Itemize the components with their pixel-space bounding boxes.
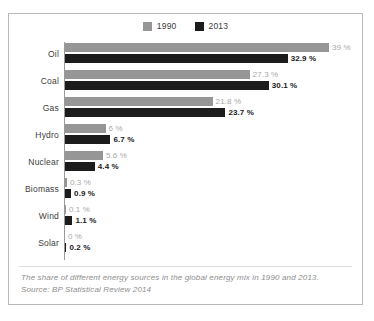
bar-value-nuclear-1990: 5.6 %	[103, 152, 127, 160]
bar-group-coal: Coal 27.3 % 30.1 %	[9, 67, 364, 94]
bar-pair-solar: 0 % 0.2 %	[64, 229, 364, 256]
bar-row-oil-2013: 32.9 %	[65, 54, 316, 63]
bar-coal-1990[interactable]	[65, 70, 250, 79]
bar-row-hydro-2013: 6.7 %	[65, 135, 134, 144]
bar-oil-2013[interactable]	[65, 54, 288, 63]
bar-row-gas-2013: 23.7 %	[65, 108, 254, 117]
bar-value-oil-2013: 32.9 %	[288, 55, 317, 63]
bar-nuclear-1990[interactable]	[65, 151, 103, 160]
bar-value-biomass-2013: 0.9 %	[71, 190, 95, 198]
bar-group-oil: Oil 39 % 32.9 %	[9, 40, 364, 67]
plot-area: Oil 39 % 32.9 % Coal 27.3 %	[9, 40, 364, 262]
bar-value-solar-2013: 0.2 %	[66, 244, 90, 252]
category-label-solar: Solar	[9, 238, 64, 248]
legend-entry-2013[interactable]: 2013	[195, 22, 229, 31]
bar-row-biomass-1990: 0.3 %	[65, 178, 91, 187]
legend-label-1990: 1990	[157, 22, 177, 31]
bar-value-oil-1990: 39 %	[329, 44, 351, 52]
legend-swatch-icon-2013	[195, 22, 204, 31]
bar-row-nuclear-1990: 5.6 %	[65, 151, 127, 160]
bar-value-hydro-2013: 6.7 %	[110, 136, 134, 144]
bar-row-coal-2013: 30.1 %	[65, 81, 297, 90]
bar-row-wind-2013: 1.1 %	[65, 216, 96, 225]
bar-hydro-1990[interactable]	[65, 124, 106, 133]
bar-wind-2013[interactable]	[65, 216, 72, 225]
legend-entry-1990[interactable]: 1990	[143, 22, 177, 31]
bar-pair-biomass: 0.3 % 0.9 %	[64, 175, 364, 202]
category-label-hydro: Hydro	[9, 130, 64, 140]
bar-nuclear-2013[interactable]	[65, 162, 95, 171]
bar-value-coal-1990: 27.3 %	[250, 71, 279, 79]
bar-group-hydro: Hydro 6 % 6.7 %	[9, 121, 364, 148]
bar-group-gas: Gas 21.8 % 23.7 %	[9, 94, 364, 121]
bar-coal-2013[interactable]	[65, 81, 269, 90]
legend-label-2013: 2013	[209, 22, 229, 31]
bar-oil-1990[interactable]	[65, 43, 329, 52]
bar-value-gas-1990: 21.8 %	[213, 98, 242, 106]
bar-row-wind-1990: 0.1 %	[65, 205, 90, 214]
bar-row-solar-1990: 0 %	[65, 232, 82, 241]
category-label-wind: Wind	[9, 211, 64, 221]
chart-caption: The share of different energy sources in…	[21, 272, 350, 296]
bar-value-wind-2013: 1.1 %	[72, 217, 96, 225]
bar-group-biomass: Biomass 0.3 % 0.9 %	[9, 175, 364, 202]
bar-hydro-2013[interactable]	[65, 135, 110, 144]
bar-pair-hydro: 6 % 6.7 %	[64, 121, 364, 148]
category-label-coal: Coal	[9, 76, 64, 86]
bar-pair-nuclear: 5.6 % 4.4 %	[64, 148, 364, 175]
bar-pair-gas: 21.8 % 23.7 %	[64, 94, 364, 121]
bar-row-coal-1990: 27.3 %	[65, 70, 278, 79]
bar-value-nuclear-2013: 4.4 %	[95, 163, 119, 171]
caption-source: Source: BP Statistical Review 2014	[21, 284, 350, 296]
category-label-biomass: Biomass	[9, 184, 64, 194]
bar-row-nuclear-2013: 4.4 %	[65, 162, 119, 171]
category-label-nuclear: Nuclear	[9, 157, 64, 167]
bar-row-gas-1990: 21.8 %	[65, 97, 241, 106]
bar-value-wind-1990: 0.1 %	[66, 206, 90, 214]
bar-pair-coal: 27.3 % 30.1 %	[64, 67, 364, 94]
bar-value-coal-2013: 30.1 %	[269, 82, 298, 90]
legend-swatch-icon-1990	[143, 22, 152, 31]
bar-value-biomass-1990: 0.3 %	[67, 179, 91, 187]
bar-group-solar: Solar 0 % 0.2 %	[9, 229, 364, 256]
bar-gas-1990[interactable]	[65, 97, 213, 106]
chart-figure: 1990 2013 Oil 39 % 32.9 % Coal	[8, 13, 363, 305]
bar-pair-oil: 39 % 32.9 %	[64, 40, 364, 67]
category-label-oil: Oil	[9, 49, 64, 59]
bar-row-hydro-1990: 6 %	[65, 124, 123, 133]
bar-row-biomass-2013: 0.9 %	[65, 189, 95, 198]
bar-gas-2013[interactable]	[65, 108, 225, 117]
bar-value-solar-1990: 0 %	[65, 233, 82, 241]
bar-group-nuclear: Nuclear 5.6 % 4.4 %	[9, 148, 364, 175]
caption-divider	[19, 266, 352, 267]
caption-description: The share of different energy sources in…	[21, 272, 350, 284]
bar-value-gas-2013: 23.7 %	[225, 109, 254, 117]
bar-row-solar-2013: 0.2 %	[65, 243, 90, 252]
category-label-gas: Gas	[9, 103, 64, 113]
bar-pair-wind: 0.1 % 1.1 %	[64, 202, 364, 229]
bar-value-hydro-1990: 6 %	[106, 125, 123, 133]
bar-group-wind: Wind 0.1 % 1.1 %	[9, 202, 364, 229]
bar-row-oil-1990: 39 %	[65, 43, 351, 52]
chart-legend: 1990 2013	[9, 22, 362, 31]
